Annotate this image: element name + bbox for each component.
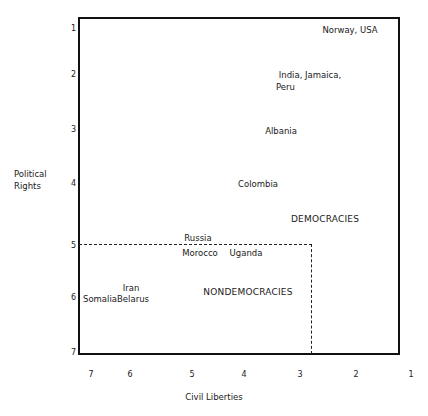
region-label-democracies: DEMOCRACIES xyxy=(291,214,359,225)
y-tick-label-4: 4 xyxy=(62,180,76,188)
x-tick-label-2: 2 xyxy=(349,371,363,379)
y-tick-label-2: 2 xyxy=(62,71,76,79)
y-tick-label-5: 5 xyxy=(62,242,76,250)
point-label-belarus: Belarus xyxy=(117,294,149,305)
point-label-morocco: Morocco xyxy=(182,248,218,259)
point-label-colombia: Colombia xyxy=(238,179,278,190)
y-axis-title-line2: Rights xyxy=(14,180,47,192)
threshold-line-horizontal xyxy=(79,244,312,245)
x-tick-label-4: 4 xyxy=(237,371,251,379)
point-label-peru: Peru xyxy=(276,82,295,93)
point-label-india-jamaica: India, Jamaica, xyxy=(279,70,341,81)
point-label-albania: Albania xyxy=(265,126,297,137)
x-tick-label-5: 5 xyxy=(185,371,199,379)
x-tick-label-3: 3 xyxy=(293,371,307,379)
point-label-russia: Russia xyxy=(184,233,211,244)
point-label-somalia: Somalia xyxy=(83,294,117,305)
x-tick-label-1: 1 xyxy=(404,371,418,379)
scatter-chart: 1 2 3 4 5 6 7 7 6 5 4 3 2 1 Political Ri… xyxy=(0,0,428,416)
y-tick-label-7: 7 xyxy=(62,349,76,357)
threshold-line-vertical xyxy=(311,244,312,354)
x-tick-label-7: 7 xyxy=(84,371,98,379)
y-axis-title-line1: Political xyxy=(14,168,47,180)
point-label-norway-usa: Norway, USA xyxy=(322,25,377,36)
y-tick-label-6: 6 xyxy=(62,294,76,302)
region-label-nondemocracies: NONDEMOCRACIES xyxy=(203,287,292,298)
x-axis-title: Civil Liberties xyxy=(0,392,428,402)
y-tick-label-1: 1 xyxy=(62,25,76,33)
y-axis-title: Political Rights xyxy=(14,168,47,192)
y-tick-label-3: 3 xyxy=(62,126,76,134)
point-label-uganda: Uganda xyxy=(230,248,263,259)
point-label-iran: Iran xyxy=(123,283,140,294)
x-tick-label-6: 6 xyxy=(123,371,137,379)
